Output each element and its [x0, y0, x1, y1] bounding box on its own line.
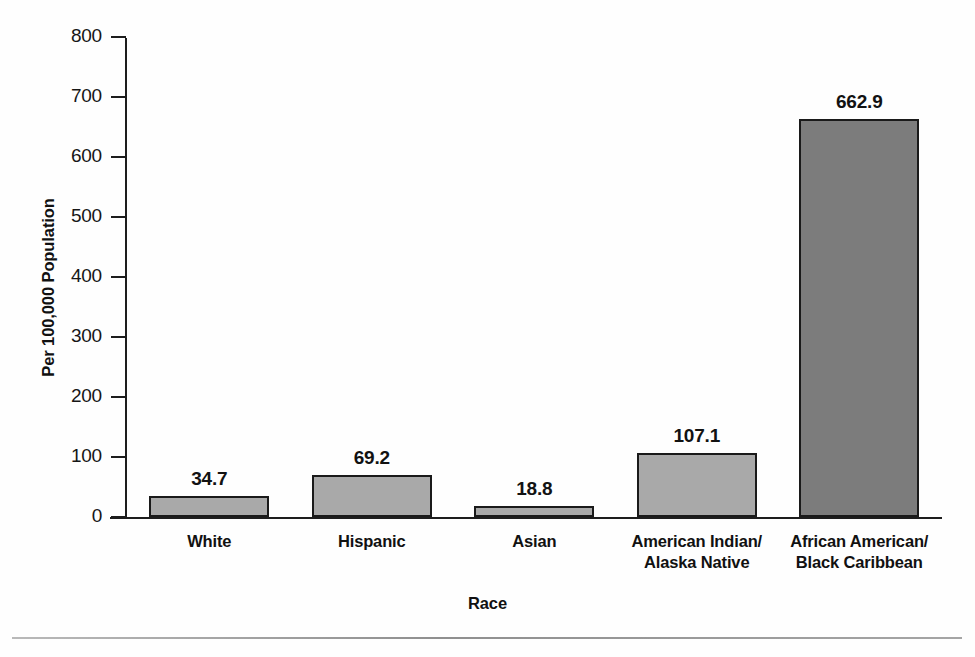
y-axis-title: Per 100,000 Population [39, 178, 58, 398]
y-tick-label: 800 [46, 26, 102, 45]
x-category-label-line: Alaska Native [602, 552, 792, 573]
bar-value-label: 662.9 [799, 91, 919, 113]
bar-value-label: 107.1 [637, 425, 757, 447]
y-tick-mark [111, 156, 126, 158]
bar [474, 506, 594, 517]
bar-value-label: 18.8 [474, 478, 594, 500]
y-tick-mark [111, 516, 126, 518]
x-category-label-line: Black Caribbean [764, 552, 954, 573]
x-category-label-line: Asian [439, 531, 629, 552]
x-category-label-line: Hispanic [277, 531, 467, 552]
x-category-label-line: White [114, 531, 304, 552]
x-category-label: American Indian/Alaska Native [602, 531, 792, 573]
x-category-label-line: American Indian/ [602, 531, 792, 552]
y-tick-mark [111, 456, 126, 458]
y-tick-mark [111, 36, 126, 38]
x-category-label: White [114, 531, 304, 552]
y-tick-label: 100 [46, 446, 102, 465]
y-tick-label: 600 [46, 146, 102, 165]
y-tick-label: 700 [46, 86, 102, 105]
x-category-label-line: African American/ [764, 531, 954, 552]
y-tick-mark [111, 96, 126, 98]
x-category-label: Hispanic [277, 531, 467, 552]
y-tick-mark [111, 336, 126, 338]
y-tick-label: 0 [46, 506, 102, 525]
bar [799, 119, 919, 517]
x-category-label: Asian [439, 531, 629, 552]
bar [637, 453, 757, 517]
y-tick-mark [111, 276, 126, 278]
x-axis-line [110, 517, 942, 519]
footer-divider [12, 637, 962, 639]
bar-chart-plot-area: 0100200300400500600700800 34.769.218.810… [0, 0, 975, 657]
y-axis-line [125, 38, 127, 519]
bar-value-label: 34.7 [149, 468, 269, 490]
bar [149, 496, 269, 517]
x-category-label: African American/Black Caribbean [764, 531, 954, 573]
x-axis-title: Race [0, 594, 975, 613]
chart-page: 0100200300400500600700800 34.769.218.810… [0, 0, 975, 657]
bar [312, 475, 432, 517]
bar-value-label: 69.2 [312, 447, 432, 469]
y-tick-mark [111, 396, 126, 398]
y-tick-mark [111, 216, 126, 218]
